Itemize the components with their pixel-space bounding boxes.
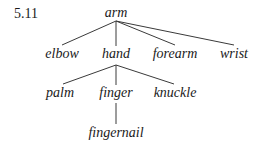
edge-arm-forearm <box>116 21 175 45</box>
node-wrist: wrist <box>220 47 248 61</box>
node-palm: palm <box>46 86 74 100</box>
edge-hand-knuckle <box>116 65 174 84</box>
edge-arm-wrist <box>116 21 234 45</box>
edge-hand-palm <box>63 65 116 84</box>
edge-arm-elbow <box>62 21 116 45</box>
node-finger: finger <box>99 86 132 100</box>
node-hand: hand <box>102 47 130 61</box>
node-fingernail: fingernail <box>88 126 143 140</box>
node-arm: arm <box>105 6 128 20</box>
node-elbow: elbow <box>45 47 78 61</box>
node-forearm: forearm <box>153 47 198 61</box>
node-knuckle: knuckle <box>154 86 197 100</box>
